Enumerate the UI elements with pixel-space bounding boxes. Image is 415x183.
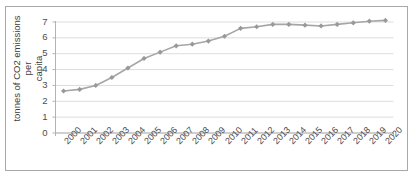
data-point-marker <box>238 26 243 31</box>
data-point-marker <box>351 20 356 25</box>
data-point-marker <box>367 19 372 24</box>
data-point-marker <box>254 24 259 29</box>
line-chart-svg <box>0 0 415 183</box>
data-point-marker <box>318 23 323 28</box>
data-point-marker <box>206 38 211 43</box>
data-point-marker <box>77 87 82 92</box>
data-point-markers <box>61 18 388 94</box>
data-series-line <box>64 20 386 91</box>
chart-figure: tonnes of CO2 emissions per capita 01234… <box>0 0 415 183</box>
data-point-marker <box>174 43 179 48</box>
data-point-marker <box>302 23 307 28</box>
data-point-marker <box>61 88 66 93</box>
data-point-marker <box>286 22 291 27</box>
data-point-marker <box>335 22 340 27</box>
chart-plot-container: tonnes of CO2 emissions per capita 01234… <box>0 0 415 183</box>
data-point-marker <box>270 22 275 27</box>
data-point-marker <box>93 83 98 88</box>
data-point-marker <box>190 42 195 47</box>
